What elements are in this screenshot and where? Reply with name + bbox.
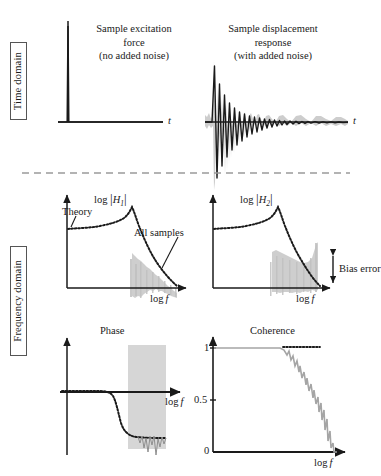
panel-h2-frequency-response — [213, 195, 333, 296]
coherence-ytick-label-05: 0.5 — [194, 395, 207, 406]
response-caption-line3: (with added noise) — [208, 49, 338, 63]
coherence-x-axis-label-prefix: log — [314, 457, 327, 468]
coherence-ytick-label-0: 0 — [204, 446, 209, 457]
h2-x-axis-label: log f — [296, 294, 314, 305]
h2-title: log |H2| — [240, 192, 273, 208]
h1-title: log |H1| — [94, 192, 127, 208]
response-x-axis-label: t — [353, 116, 356, 127]
excitation-caption: Sample excitation force (no added noise) — [78, 22, 190, 63]
h1-theory-curve — [68, 207, 177, 286]
phase-title: Phase — [100, 326, 125, 337]
h2-x-axis-label-var: f — [312, 293, 315, 304]
h1-x-axis-label: log f — [150, 294, 168, 305]
time-domain-label: Time domain — [13, 52, 24, 110]
h2-title-prefix: log — [240, 194, 253, 205]
h1-theory-leader-line — [71, 216, 76, 227]
response-caption: Sample displacement response (with added… — [208, 22, 338, 63]
coherence-ytick-label-1: 1 — [204, 343, 209, 354]
phase-x-axis-label-var: f — [181, 396, 184, 407]
panel-coherence-function — [210, 337, 345, 452]
excitation-x-axis-label: t — [168, 116, 171, 127]
excitation-caption-line1: Sample excitation — [78, 22, 190, 36]
excitation-caption-line2: force — [78, 36, 190, 50]
h1-title-prefix: log — [94, 194, 107, 205]
h1-x-axis-label-var: f — [166, 293, 169, 304]
h1-theory-annotation: Theory — [62, 207, 92, 218]
frequency-domain-label: Frequency domain — [13, 260, 24, 342]
panel-sample-displacement-response — [205, 60, 348, 190]
h2-x-axis-label-prefix: log — [296, 293, 309, 304]
coherence-x-axis-label: log f — [314, 458, 332, 469]
time-domain-label-box: Time domain — [10, 42, 27, 120]
coherence-title: Coherence — [250, 326, 295, 337]
h1-all-samples-annotation: All samples — [134, 228, 184, 239]
response-caption-line1: Sample displacement — [208, 22, 338, 36]
panel-phase-response — [60, 338, 180, 455]
phase-x-axis-label: log f — [165, 397, 183, 408]
phase-x-axis-label-prefix: log — [165, 396, 178, 407]
coherence-noisy-trace — [214, 348, 337, 452]
response-caption-line2: response — [208, 36, 338, 50]
phase-noise-band — [128, 345, 166, 449]
h1-all-samples-leader-line — [162, 237, 178, 268]
frequency-domain-label-box: Frequency domain — [10, 246, 27, 356]
bias-error-annotation: Bias error — [339, 264, 381, 275]
coherence-x-axis-label-var: f — [330, 457, 333, 468]
excitation-caption-line3: (no added noise) — [78, 49, 190, 63]
h1-x-axis-label-prefix: log — [150, 293, 163, 304]
